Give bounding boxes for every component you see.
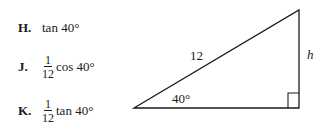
side-h-label: h: [307, 47, 314, 63]
right-triangle-diagram: [0, 0, 328, 128]
right-angle-marker: [288, 93, 299, 108]
angle-label: 40°: [172, 91, 190, 107]
hypotenuse-label: 12: [190, 48, 203, 64]
